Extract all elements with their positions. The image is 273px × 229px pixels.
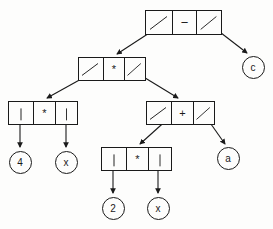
leaf-node-4[interactable]: 4 [9,151,32,174]
node-plus[interactable]: + [146,101,215,125]
node-mul-left-right-pointer-cell[interactable] [56,102,77,124]
pointer-tick-icon [149,148,171,170]
node-mul-bottom[interactable]: * [101,147,172,171]
leaf-node-c[interactable]: c [242,56,265,79]
pointer-slash-icon [79,58,103,80]
node-mul-left-left-pointer-cell[interactable] [9,102,33,124]
leaf-label: x [156,203,161,214]
pointer-slash-icon [194,102,214,124]
pointer-tick-icon [56,102,77,124]
leaf-label: a [225,153,231,164]
node-mul-left-operator: * [33,102,56,124]
node-mul-bottom-right-pointer-cell[interactable] [149,148,171,170]
node-mul-left[interactable]: * [8,101,78,125]
pointer-tick-icon [102,148,126,170]
pointer-tick-icon [9,102,33,124]
leaf-label: x [64,157,69,168]
leaf-node-2[interactable]: 2 [102,197,125,220]
node-root-operator: − [172,11,197,34]
pointer-slash-icon [147,102,171,124]
leaf-label: 2 [110,203,116,214]
leaf-node-x2[interactable]: x [147,197,170,220]
node-root-left-pointer-cell[interactable] [146,11,172,34]
pointer-slash-icon [125,58,145,80]
expression-tree-diagram: − * * [0,0,273,229]
node-mul-bottom-operator: * [126,148,149,170]
node-mul-top-operator: * [103,58,125,80]
node-plus-left-pointer-cell[interactable] [147,102,171,124]
node-plus-right-pointer-cell[interactable] [194,102,214,124]
node-root-right-pointer-cell[interactable] [197,11,221,34]
pointer-slash-icon [146,11,172,34]
leaf-node-x1[interactable]: x [55,151,78,174]
node-mul-top[interactable]: * [78,57,146,81]
node-mul-bottom-left-pointer-cell[interactable] [102,148,126,170]
leaf-label: 4 [17,157,23,168]
node-root[interactable]: − [145,10,222,35]
node-plus-operator: + [171,102,194,124]
node-mul-top-left-pointer-cell[interactable] [79,58,103,80]
leaf-label: c [251,62,256,73]
pointer-slash-icon [197,11,221,34]
node-mul-top-right-pointer-cell[interactable] [125,58,145,80]
leaf-node-a[interactable]: a [217,147,240,170]
